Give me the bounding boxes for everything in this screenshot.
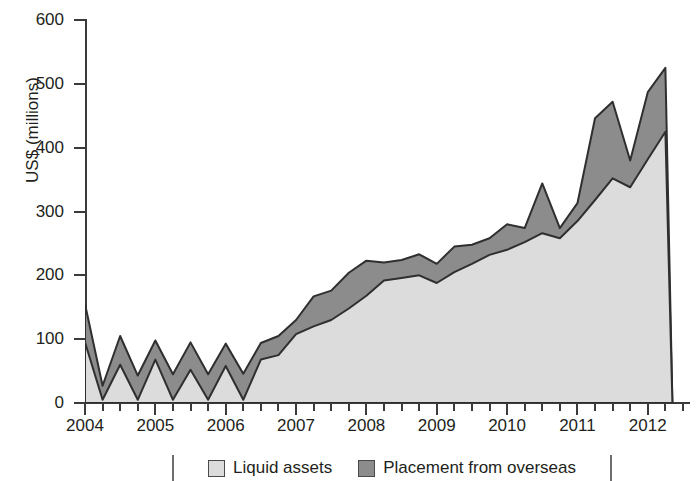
x-tick-2009-q3 <box>471 404 473 411</box>
legend-item-liquid-assets: Liquid assets <box>208 458 332 478</box>
y-tick-100 <box>74 338 85 340</box>
x-tick-2006-q2 <box>242 404 244 411</box>
x-tick-2010-q4 <box>559 404 561 411</box>
legend-label-placement-from-overseas: Placement from overseas <box>383 458 576 478</box>
x-tick-2004-q3 <box>119 404 121 411</box>
y-tick-label-300: 300 <box>12 203 64 220</box>
x-tick-2011-q2 <box>594 404 596 411</box>
x-tick-2011-q1 <box>576 404 578 415</box>
x-tick-label-2008: 2008 <box>331 417 401 434</box>
x-tick-2007-q3 <box>330 404 332 411</box>
x-tick-2008-q2 <box>383 404 385 411</box>
x-tick-2009-q1 <box>436 404 438 415</box>
y-tick-label-0: 0 <box>12 394 64 411</box>
x-tick-2007-q2 <box>313 404 315 411</box>
x-tick-2005-q4 <box>207 404 209 411</box>
y-tick-label-500: 500 <box>12 75 64 92</box>
stacked-area-plot <box>85 20 690 403</box>
x-tick-2008-q1 <box>365 404 367 415</box>
x-tick-2006-q3 <box>260 404 262 411</box>
y-tick-400 <box>74 147 85 149</box>
y-tick-200 <box>74 274 85 276</box>
legend-swatch-liquid-assets <box>208 460 225 477</box>
y-tick-label-600: 600 <box>12 11 64 28</box>
x-tick-2010-q1 <box>506 404 508 415</box>
y-tick-500 <box>74 83 85 85</box>
area-chart: US$ (millions) 0100200300400500600 20042… <box>0 0 698 481</box>
x-tick-2008-q3 <box>401 404 403 411</box>
x-tick-label-2007: 2007 <box>261 417 331 434</box>
y-tick-label-200: 200 <box>12 266 64 283</box>
x-tick-label-2004: 2004 <box>50 417 120 434</box>
x-tick-2008-q4 <box>418 404 420 411</box>
x-tick-2011-q3 <box>612 404 614 411</box>
y-axis-title: US$ (millions) <box>23 35 43 225</box>
x-tick-label-2005: 2005 <box>120 417 190 434</box>
y-tick-600 <box>74 19 85 21</box>
x-tick-2010-q3 <box>541 404 543 411</box>
x-tick-2009-q2 <box>453 404 455 411</box>
x-tick-trailing <box>682 404 684 411</box>
x-tick-2011-q4 <box>629 404 631 411</box>
x-tick-2004-q1 <box>84 404 86 415</box>
y-tick-300 <box>74 211 85 213</box>
x-tick-2010-q2 <box>524 404 526 411</box>
x-tick-label-2010: 2010 <box>472 417 542 434</box>
x-tick-2006-q4 <box>277 404 279 411</box>
x-tick-2012-q1 <box>647 404 649 415</box>
x-tick-label-2009: 2009 <box>402 417 472 434</box>
x-tick-2005-q3 <box>190 404 192 411</box>
x-tick-2005-q2 <box>172 404 174 411</box>
x-tick-2009-q4 <box>489 404 491 411</box>
y-tick-label-100: 100 <box>12 330 64 347</box>
x-tick-label-2006: 2006 <box>191 417 261 434</box>
x-tick-2004-q2 <box>102 404 104 411</box>
legend-swatch-placement-from-overseas <box>358 460 375 477</box>
x-tick-2006-q1 <box>225 404 227 415</box>
legend-label-liquid-assets: Liquid assets <box>233 458 332 478</box>
legend-item-placement-from-overseas: Placement from overseas <box>358 458 576 478</box>
x-tick-2007-q1 <box>295 404 297 415</box>
x-tick-2005-q1 <box>154 404 156 415</box>
x-tick-label-2012: 2012 <box>613 417 683 434</box>
x-tick-trailing <box>664 404 666 411</box>
x-tick-2004-q4 <box>137 404 139 411</box>
chart-legend: Liquid assets Placement from overseas <box>172 455 612 481</box>
x-tick-label-2011: 2011 <box>542 417 612 434</box>
x-tick-2007-q4 <box>348 404 350 411</box>
y-tick-label-400: 400 <box>12 139 64 156</box>
